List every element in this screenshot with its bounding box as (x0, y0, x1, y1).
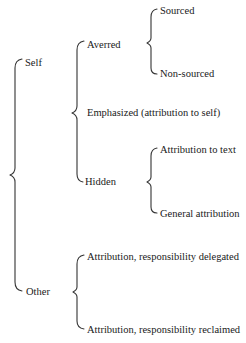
node-other: Other (26, 286, 50, 298)
node-self: Self (25, 57, 42, 69)
node-attribution-to-text: Attribution to text (160, 144, 236, 156)
brace-self (72, 41, 84, 182)
node-general-attribution: General attribution (160, 208, 240, 220)
brace-hidden (147, 148, 157, 213)
node-sourced: Sourced (160, 5, 194, 17)
brace-other (73, 255, 84, 329)
node-responsibility-reclaimed: Attribution, responsibility reclaimed (87, 324, 240, 336)
node-hidden: Hidden (85, 176, 116, 188)
brace-averred (147, 9, 157, 74)
node-emphasized: Emphasized (attribution to self) (87, 107, 220, 119)
node-non-sourced: Non-sourced (160, 68, 214, 80)
brace-root (10, 59, 22, 291)
node-responsibility-delegated: Attribution, responsibility delegated (87, 251, 239, 263)
node-averred: Averred (87, 39, 121, 51)
